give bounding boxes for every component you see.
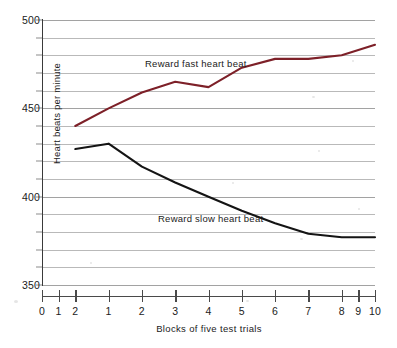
x-axis-tick xyxy=(275,290,276,302)
x-axis-tick-label: 2 xyxy=(130,305,154,317)
x-axis-tick xyxy=(42,290,43,302)
x-axis-tick xyxy=(375,290,376,302)
series-line-reward-fast-heart-beat xyxy=(75,45,375,126)
x-axis-tick-label: 7 xyxy=(296,305,320,317)
x-axis-tick-label: 1 xyxy=(97,305,121,317)
x-axis-tick-label: 2 xyxy=(63,305,87,317)
chart-figure: 350400450500 Heart beats per minute Rewa… xyxy=(0,0,397,348)
series-label-reward-slow-heart-beat: Reward slow heart beat xyxy=(158,213,263,224)
x-axis-tick-label: 5 xyxy=(230,305,254,317)
x-axis-tick xyxy=(142,290,143,302)
x-axis-tick-label: 3 xyxy=(163,305,187,317)
x-axis-tick xyxy=(175,290,176,302)
x-axis-tick-label: 6 xyxy=(263,305,287,317)
x-axis-tick xyxy=(242,290,243,302)
x-axis-tick xyxy=(109,290,110,302)
x-axis-tick xyxy=(308,290,309,302)
x-axis-tick xyxy=(342,290,343,302)
x-axis-tick-label: 10 xyxy=(363,305,387,317)
series-label-reward-fast-heart-beat: Reward fast heart beat xyxy=(145,58,247,69)
x-axis-tick xyxy=(59,290,60,302)
x-axis-tick xyxy=(75,290,76,302)
x-axis-tick xyxy=(209,290,210,302)
x-axis-title: Blocks of five test trials xyxy=(42,323,376,334)
x-axis-tick xyxy=(358,290,359,302)
x-axis-tick-label: 4 xyxy=(197,305,221,317)
